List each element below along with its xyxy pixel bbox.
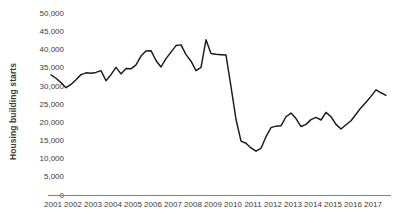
housing-starts-line-chart: Housing building starts 05,00010,00015,0… bbox=[0, 0, 399, 223]
data-series-line bbox=[51, 40, 386, 151]
plot-area bbox=[0, 0, 399, 223]
